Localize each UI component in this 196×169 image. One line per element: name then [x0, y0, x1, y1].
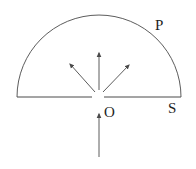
label-arc-p: P [155, 17, 163, 33]
diffracted-ray-left [70, 64, 95, 92]
slit-diffraction-figure: P S O [0, 0, 196, 169]
label-screen-s: S [168, 100, 176, 116]
diagram-canvas: P S O [0, 0, 196, 169]
diffracted-ray-right [103, 65, 129, 92]
label-slit-o: O [104, 104, 115, 120]
